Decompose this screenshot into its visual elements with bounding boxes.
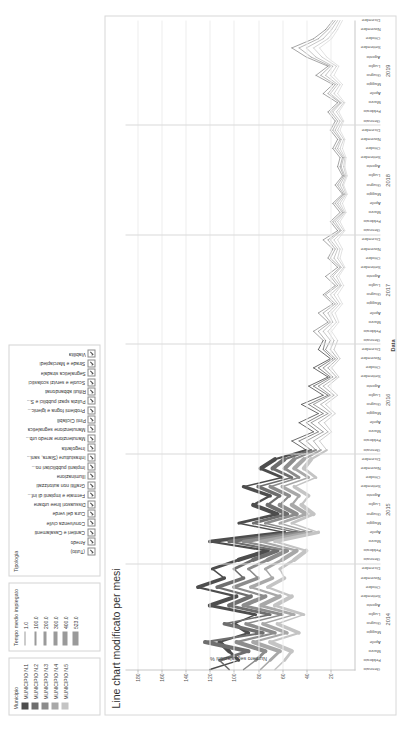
tipologia-checkbox[interactable]: [87, 387, 95, 395]
x-month-label: Luglio: [368, 283, 380, 288]
tipologia-filter[interactable]: Tipologia (Tutto)ArredoCantieri e Casala…: [8, 344, 100, 577]
tipologia-option[interactable]: Irregolarita: [12, 443, 97, 452]
x-month-label: Ottobre: [365, 365, 380, 370]
municipio-legend-item[interactable]: MUNICIPIO N.2: [30, 663, 39, 709]
x-year-label: 2015: [384, 503, 390, 515]
tipologia-checkbox[interactable]: [87, 415, 95, 423]
tipologia-checkbox[interactable]: [87, 424, 95, 432]
x-month-label: Luglio: [368, 63, 380, 68]
tipologia-option[interactable]: Viabilita: [12, 349, 97, 358]
tempo-legend-item[interactable]: 300.0: [50, 588, 59, 645]
tipologia-checkbox[interactable]: [87, 481, 95, 489]
tipologia-checkbox[interactable]: [87, 462, 95, 470]
tipologia-checkbox[interactable]: [87, 359, 95, 367]
tipologia-checkbox[interactable]: [87, 368, 95, 376]
tipologia-option[interactable]: Scuole e servizi scolastici: [12, 377, 97, 386]
x-month-label: Agosto: [366, 383, 380, 388]
x-month-label: Maggio: [366, 82, 380, 87]
x-year-label: 2019: [384, 64, 390, 76]
tipologia-option[interactable]: Infrastutture (Siarra, sani...: [12, 452, 97, 461]
tipologia-checkbox[interactable]: [87, 378, 95, 386]
tipologia-option[interactable]: Strade e Marciapiedi: [12, 358, 97, 367]
x-year-label: 2016: [384, 393, 390, 405]
tipologia-option[interactable]: Rifiuti abbandonati: [12, 386, 97, 395]
tipologia-option-label: Manutenzione arredo urb...: [25, 433, 85, 442]
line-segment: [306, 431, 323, 440]
tipologia-option[interactable]: Pinti Cicilabili: [12, 414, 97, 423]
tempo-legend-item[interactable]: 523.0: [70, 588, 79, 645]
tipologia-checkbox[interactable]: [87, 490, 95, 498]
tipologia-checkbox[interactable]: [87, 406, 95, 414]
tipologia-checkbox[interactable]: [87, 547, 95, 555]
tipologia-option[interactable]: Arredo: [12, 536, 97, 545]
x-month-label: Settembre: [360, 264, 380, 269]
tipologia-option[interactable]: Fermate e impianti di inf...: [12, 490, 97, 499]
tipologia-option[interactable]: Manutenzione segnaletica: [12, 424, 97, 433]
tipologia-option-label: Problemi fogna e igienic...: [27, 405, 85, 414]
x-axis-title: Data: [389, 339, 395, 351]
line-segment: [320, 66, 330, 75]
tipologia-option-label: Dissuasori linee urbane: [33, 499, 85, 508]
tipologia-checkbox[interactable]: [87, 518, 95, 526]
tipologia-option[interactable]: Cura del verde: [12, 508, 97, 517]
page-root: Municipio MUNICIPIO N.1MUNICIPIO N.2MUNI…: [0, 0, 405, 731]
tempo-legend-item[interactable]: 1.0: [20, 588, 29, 645]
x-month-label: Aprile: [369, 200, 380, 205]
tipologia-checkbox[interactable]: [87, 453, 95, 461]
year-separator: [125, 124, 380, 125]
tipologia-option[interactable]: Dissuasori linee urbane: [12, 499, 97, 508]
x-month-label: Giugno: [366, 182, 380, 187]
tempo-legend-item[interactable]: 100.0: [30, 588, 39, 645]
tempo-legend-item[interactable]: 200.0: [40, 588, 49, 645]
tipologia-option[interactable]: Illuminazione: [12, 471, 97, 480]
tempo-legend-label: 100.0: [32, 616, 38, 629]
tipologia-checkbox[interactable]: [87, 434, 95, 442]
tempo-legend-label: 400.0: [62, 616, 68, 629]
line-segment: [318, 422, 328, 431]
tipologia-option[interactable]: Cantieri e Casalamenti: [12, 527, 97, 536]
tipologia-option[interactable]: Manutenzione arredo urb...: [12, 433, 97, 442]
plot-canvas: 18016014012010080604020GennaioFebbraioMa…: [125, 20, 355, 670]
tipologia-checkbox[interactable]: [87, 509, 95, 517]
municipio-legend-item[interactable]: MUNICIPIO N.3: [40, 663, 49, 709]
tipologia-option-label: Strade e Marciapiedi: [39, 358, 85, 367]
x-month-label: Febbraio: [363, 219, 380, 224]
line-segment: [318, 322, 330, 331]
line-segment: [330, 93, 341, 102]
tipologia-checkbox[interactable]: [87, 443, 95, 451]
tipologia-checkbox[interactable]: [87, 537, 95, 545]
tipologia-option[interactable]: Segnaletica stradale: [12, 367, 97, 376]
x-year-label: 2014: [384, 613, 390, 625]
municipio-legend-item[interactable]: MUNICIPIO N.4: [50, 663, 59, 709]
tipologia-option[interactable]: Graffiti non autorizzati: [12, 480, 97, 489]
line-segment: [311, 57, 330, 66]
tempo-legend-item[interactable]: 400.0: [60, 588, 69, 645]
municipio-legend-item[interactable]: MUNICIPIO N.1: [20, 663, 29, 709]
line-width-swatch: [43, 631, 46, 645]
line-segment: [334, 249, 338, 258]
tipologia-option[interactable]: Impianti pubblicitari no...: [12, 461, 97, 470]
x-month-label: Aprile: [369, 420, 380, 425]
tipologia-option[interactable]: Pulizia spazi pubblici e S...: [12, 396, 97, 405]
tipologia-filter-options[interactable]: (Tutto)ArredoCantieri e CasalamentiConvi…: [12, 349, 97, 572]
tipologia-option[interactable]: Problemi fogna e igienic...: [12, 405, 97, 414]
x-month-label: Settembre: [360, 45, 380, 50]
tipologia-option[interactable]: Convivenza civile: [12, 518, 97, 527]
tipologia-checkbox[interactable]: [87, 500, 95, 508]
tipologia-checkbox[interactable]: [87, 528, 95, 536]
x-month-label: Aprile: [369, 529, 380, 534]
x-month-label: Novembre: [360, 465, 380, 470]
year-separator: [125, 453, 380, 454]
tipologia-filter-title: Tipologia: [12, 550, 18, 571]
x-month-label: Novembre: [360, 356, 380, 361]
tipologia-checkbox[interactable]: [87, 396, 95, 404]
x-month-label: Luglio: [368, 612, 380, 617]
tipologia-option-label: Convivenza civile: [46, 518, 85, 527]
tipologia-option[interactable]: (Tutto): [12, 546, 97, 555]
x-month-label: Aprile: [369, 310, 380, 315]
tipologia-checkbox[interactable]: [87, 349, 95, 357]
municipio-legend-item[interactable]: MUNICIPIO N.5: [60, 663, 69, 709]
color-swatch: [61, 702, 68, 709]
tipologia-checkbox[interactable]: [87, 471, 95, 479]
color-swatch: [21, 702, 28, 709]
